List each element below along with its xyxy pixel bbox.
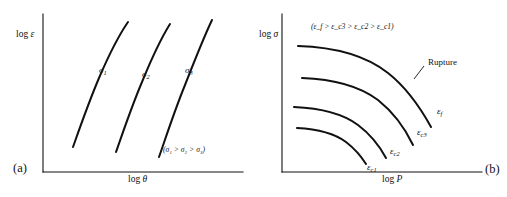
panel-b-curve-epsilon-c3 (302, 78, 413, 145)
epsilon-f-symbol: ε (437, 106, 441, 116)
epsilon-c1-subscript: c1 (371, 166, 377, 173)
epsilon-f-subscript: f (441, 110, 443, 117)
epsilon-c1-symbol: ε (367, 162, 371, 172)
epsilon-c3-subscript: c3 (421, 131, 427, 138)
panel-b-x-axis-label: log P (382, 175, 402, 185)
panel-b-y-axis-label-prefix: log (259, 29, 274, 39)
sigma1-subscript: 1 (103, 69, 106, 76)
panel-b-x-axis-label-prefix: log (382, 174, 397, 184)
panel-b-curve-label-epsilon-c2: εc2 (390, 147, 400, 156)
panel-b-tag: (b) (485, 163, 500, 176)
panel-a-x-axis-label: log θ (128, 175, 147, 185)
annotation-close-paren: ) (203, 145, 206, 154)
sigma3-subscript: 3 (189, 69, 192, 76)
panel-a-y-axis-label-symbol: ε (31, 29, 35, 39)
panel-a-plot (0, 0, 253, 197)
panel-a-x-axis-label-symbol: θ (143, 174, 148, 184)
rupture-leader-line (414, 66, 424, 79)
panel-b-curve-label-epsilon-f: εf (437, 107, 442, 116)
panel-a-curve-sigma2 (116, 24, 170, 152)
panel-b-curve-label-epsilon-c1: εc1 (367, 163, 377, 172)
panel-a-curve-label-sigma3: σ3 (185, 66, 193, 75)
panel-b-x-axis-label-symbol: P (397, 174, 403, 184)
panel-a-y-axis-label: log ε (16, 30, 34, 40)
figure-container: log ε log θ σ1 σ2 σ3 (σ₁ > σ₂ > σ₃) (a) (0, 0, 507, 197)
panel-b-curve-epsilon-f (298, 46, 431, 127)
epsilon-c2-symbol: ε (390, 146, 394, 156)
panel-b-y-axis-label-symbol: σ (274, 29, 279, 39)
annotation-body: σ₁ > σ₂ > σ₃ (166, 145, 203, 154)
epsilon-c2-subscript: c2 (394, 150, 400, 157)
sigma2-subscript: 2 (146, 73, 149, 80)
panel-b: log σ log P (ε_f > ε_c3 > ε_c2 > ε_c1) R… (254, 0, 507, 197)
panel-a-x-axis-label-prefix: log (128, 174, 143, 184)
panel-a-curve-label-sigma2: σ2 (142, 70, 150, 79)
panel-a-inequality-annotation: (σ₁ > σ₂ > σ₃) (163, 146, 205, 154)
panel-b-inequality-annotation: (ε_f > ε_c3 > ε_c2 > ε_c1) (311, 23, 394, 31)
panel-a-tag: (a) (13, 162, 27, 175)
panel-b-y-axis-label: log σ (259, 30, 278, 40)
panel-b-curve-epsilon-c1 (297, 128, 366, 164)
panel-b-curve-label-epsilon-c3: εc3 (417, 128, 427, 137)
panel-a-curve-sigma3 (159, 20, 212, 157)
panel-a: log ε log θ σ1 σ2 σ3 (σ₁ > σ₂ > σ₃) (a) (0, 0, 253, 197)
panel-a-curve-label-sigma1: σ1 (99, 66, 107, 75)
panel-a-y-axis-label-prefix: log (16, 29, 31, 39)
rupture-label: Rupture (428, 58, 457, 67)
epsilon-c3-symbol: ε (417, 127, 421, 137)
panel-b-annotation-body: (ε_f > ε_c3 > ε_c2 > ε_c1) (311, 22, 394, 31)
panel-b-curve-epsilon-c2 (294, 107, 386, 158)
panel-a-curve-sigma1 (73, 22, 128, 147)
